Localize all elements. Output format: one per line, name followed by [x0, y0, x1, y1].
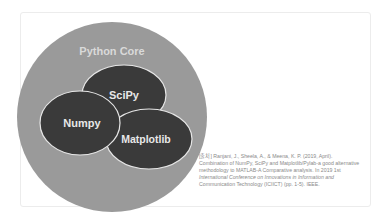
- venn-diagram: Python Core SciPy Numpy Matplotlib: [0, 0, 388, 222]
- python-core-label: Python Core: [79, 45, 144, 57]
- citation-caption: [출처] Ranjani, J., Sheela, A., & Meena, K…: [199, 153, 369, 188]
- matplotlib-label: Matplotlib: [121, 133, 171, 145]
- numpy-label: Numpy: [63, 117, 101, 129]
- scipy-label: SciPy: [109, 89, 140, 101]
- caption-line: [출처] Ranjani, J., Sheela, A., & Meena, K…: [199, 153, 369, 160]
- caption-line: methodology to MATLAB-A Comparative anal…: [199, 167, 369, 174]
- caption-line: Communication Technology (ICIICT) (pp. 1…: [199, 181, 369, 188]
- caption-line: International Conference on Innovations …: [199, 174, 369, 181]
- caption-line: Combination of NumPy, SciPy and Matplotl…: [199, 160, 369, 167]
